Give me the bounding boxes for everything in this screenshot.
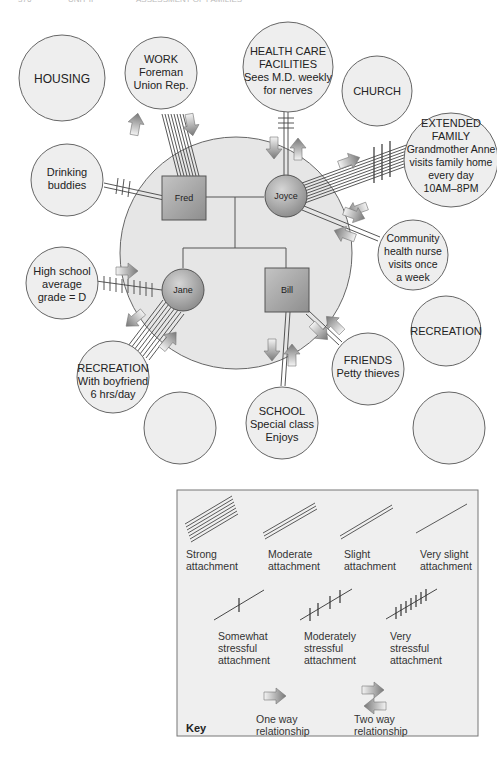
- system-church[interactable]: CHURCH: [342, 56, 412, 126]
- svg-text:for nerves: for nerves: [264, 84, 313, 96]
- svg-text:With boyfriend: With boyfriend: [78, 375, 148, 387]
- svg-text:attachment: attachment: [344, 560, 396, 572]
- system-drinking-buddies[interactable]: Drinking buddies: [31, 144, 103, 216]
- key-very-stressful-label: Very: [390, 630, 412, 642]
- key-moderate-label: Moderate: [268, 548, 313, 560]
- svg-text:HOUSING: HOUSING: [34, 72, 90, 86]
- system-community-nurse[interactable]: Community health nurse visits once a wee…: [378, 220, 448, 290]
- member-bill[interactable]: Bill: [265, 268, 309, 312]
- member-jane[interactable]: Jane: [162, 269, 204, 311]
- system-empty-2[interactable]: [413, 392, 485, 464]
- svg-text:6 hrs/day: 6 hrs/day: [90, 388, 136, 400]
- key-slight-label: Slight: [344, 548, 370, 560]
- svg-text:attachment: attachment: [390, 654, 442, 666]
- svg-text:FACILITIES: FACILITIES: [259, 58, 317, 70]
- svg-text:every day: every day: [428, 169, 474, 181]
- system-empty-1[interactable]: [144, 392, 216, 464]
- key-somewhat-label: Somewhat: [218, 630, 268, 642]
- member-joyce[interactable]: Joyce: [265, 175, 307, 217]
- key-strong-label: Strong: [186, 548, 217, 560]
- svg-text:HEALTH CARE: HEALTH CARE: [250, 45, 326, 57]
- member-fred[interactable]: Fred: [162, 176, 206, 220]
- svg-text:attachment: attachment: [268, 560, 320, 572]
- svg-text:grade = D: grade = D: [38, 291, 87, 303]
- svg-text:10AM–8PM: 10AM–8PM: [424, 182, 479, 194]
- svg-text:buddies: buddies: [48, 179, 87, 191]
- system-friends[interactable]: FRIENDS Petty thieves: [332, 333, 404, 405]
- svg-text:stressful: stressful: [304, 642, 343, 654]
- key-very-slight-label: Very slight: [420, 548, 469, 560]
- svg-text:attachment: attachment: [304, 654, 356, 666]
- svg-text:SCHOOL: SCHOOL: [259, 405, 305, 417]
- system-health-care[interactable]: HEALTH CARE FACILITIES Sees M.D. weekly …: [243, 22, 333, 112]
- svg-text:Jane: Jane: [173, 285, 193, 295]
- svg-text:FAMILY: FAMILY: [432, 130, 471, 142]
- svg-text:Foreman: Foreman: [139, 66, 183, 78]
- svg-text:visits once: visits once: [388, 258, 437, 270]
- svg-text:EXTENDED: EXTENDED: [421, 117, 481, 129]
- ecomap-diagram: Fred Joyce Jane Bill HOUSING WORK Forema…: [0, 0, 497, 759]
- svg-text:relationship: relationship: [354, 725, 408, 737]
- svg-text:attachment: attachment: [420, 560, 472, 572]
- svg-text:Grandmother Anne: Grandmother Anne: [407, 143, 496, 155]
- key-moderately-label: Moderately: [304, 630, 357, 642]
- svg-text:a week: a week: [396, 271, 430, 283]
- svg-text:stressful: stressful: [218, 642, 257, 654]
- svg-text:CHURCH: CHURCH: [353, 85, 401, 97]
- svg-text:Bill: Bill: [281, 285, 293, 295]
- arrow-fred-to-work-icon: [126, 112, 146, 136]
- svg-text:visits family home: visits family home: [410, 156, 493, 168]
- key-title: Key: [186, 722, 207, 734]
- svg-text:Enjoys: Enjoys: [265, 431, 299, 443]
- svg-text:FRIENDS: FRIENDS: [344, 354, 392, 366]
- svg-text:stressful: stressful: [390, 642, 429, 654]
- arrow-work-to-fred-icon: [181, 113, 201, 137]
- svg-text:WORK: WORK: [144, 53, 179, 65]
- svg-text:attachment: attachment: [218, 654, 270, 666]
- system-recreation-jane[interactable]: RECREATION With boyfriend 6 hrs/day: [77, 341, 149, 413]
- system-high-school[interactable]: High school average grade = D: [26, 247, 98, 319]
- svg-text:health nurse: health nurse: [384, 245, 442, 257]
- key-box: Strong attachment Moderate attachment Sl…: [177, 490, 478, 737]
- svg-text:Sees M.D. weekly: Sees M.D. weekly: [244, 71, 333, 83]
- svg-text:Union Rep.: Union Rep.: [133, 79, 188, 91]
- svg-text:Joyce: Joyce: [274, 191, 298, 201]
- system-extended-family[interactable]: EXTENDED FAMILY Grandmother Anne visits …: [404, 113, 497, 207]
- svg-text:average: average: [42, 278, 82, 290]
- key-two-way-label: Two way: [354, 713, 396, 725]
- svg-text:relationship: relationship: [256, 725, 310, 737]
- svg-text:Community: Community: [386, 232, 440, 244]
- svg-text:Drinking: Drinking: [47, 166, 87, 178]
- system-work[interactable]: WORK Foreman Union Rep.: [125, 37, 197, 109]
- svg-text:attachment: attachment: [186, 560, 238, 572]
- key-one-way-label: One way: [256, 713, 298, 725]
- system-housing[interactable]: HOUSING: [19, 35, 105, 121]
- svg-text:RECREATION: RECREATION: [410, 325, 481, 337]
- system-school[interactable]: SCHOOL Special class Enjoys: [246, 387, 318, 459]
- system-recreation-right[interactable]: RECREATION: [410, 296, 481, 366]
- svg-text:RECREATION: RECREATION: [77, 362, 148, 374]
- svg-text:High school: High school: [33, 265, 90, 277]
- svg-text:Petty thieves: Petty thieves: [337, 367, 400, 379]
- svg-text:Special class: Special class: [250, 418, 315, 430]
- svg-text:Fred: Fred: [175, 193, 194, 203]
